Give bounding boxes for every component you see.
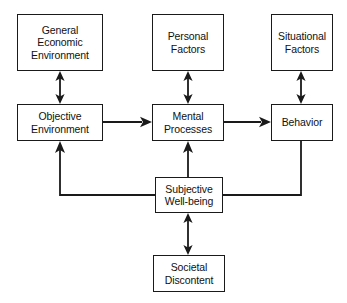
- edge-objenv-mental: [103, 117, 152, 127]
- edge-gee-objenv: [55, 71, 64, 104]
- edge-behavior-swb: [223, 141, 301, 195]
- node-label: Objective Environment: [29, 110, 91, 134]
- node-label: Mental Processes: [162, 110, 214, 134]
- node-mental-processes[interactable]: Mental Processes: [152, 104, 224, 141]
- edge-swb-societal: [183, 213, 192, 255]
- edge-swb-objenv: [55, 141, 155, 195]
- node-societal-discontent[interactable]: Societal Discontent: [153, 255, 225, 292]
- edge-mental-behavior: [224, 117, 271, 127]
- node-general-economic-environment[interactable]: General Economic Environment: [17, 14, 103, 71]
- node-label: Behavior: [280, 116, 325, 128]
- node-situational-factors[interactable]: Situational Factors: [271, 14, 333, 71]
- node-label: Situational Factors: [276, 30, 328, 54]
- node-label: Subjective Well-being: [163, 183, 215, 207]
- node-personal-factors[interactable]: Personal Factors: [152, 14, 224, 71]
- node-behavior[interactable]: Behavior: [271, 104, 333, 141]
- node-subjective-well-being[interactable]: Subjective Well-being: [155, 177, 223, 213]
- node-label: Societal Discontent: [163, 261, 216, 285]
- node-label: General Economic Environment: [29, 24, 91, 61]
- node-label: Personal Factors: [166, 30, 211, 54]
- edge-situational-behavior: [296, 71, 305, 104]
- edge-swb-mental: [183, 141, 193, 177]
- edge-personal-mental: [183, 71, 192, 104]
- node-objective-environment[interactable]: Objective Environment: [17, 104, 103, 141]
- diagram-canvas: General Economic Environment Personal Fa…: [0, 0, 347, 303]
